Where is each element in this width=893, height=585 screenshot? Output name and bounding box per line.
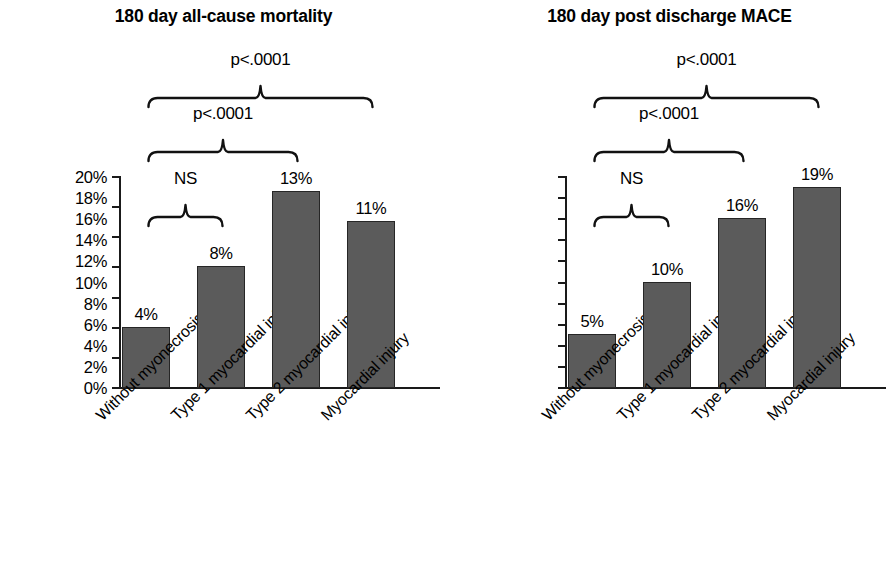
y-axis-tick-label: 6% (37, 315, 107, 334)
significance-bracket (594, 204, 669, 226)
significance-label: NS (174, 169, 197, 189)
y-axis-tick (558, 197, 565, 199)
significance-bracket (148, 85, 373, 107)
significance-bracket (594, 85, 819, 107)
bar-value-label: 19% (801, 165, 833, 184)
y-axis-tick-label: 18% (37, 189, 107, 208)
y-axis-tick-label: 0% (37, 379, 107, 398)
bar-value-label: 13% (280, 169, 312, 188)
y-axis-tick (112, 206, 119, 208)
chart-panel-post-discharge-mace: 180 day post discharge MACE p<.0001p<.00… (446, 0, 893, 585)
y-axis-tick-label: 20% (37, 168, 107, 187)
panel-title: 180 day all-cause mortality (0, 6, 447, 27)
y-axis-tick-label: 10% (37, 273, 107, 292)
bar-value-label: 10% (651, 260, 683, 279)
y-axis-tick (112, 297, 119, 299)
y-axis-tick-label: 12% (37, 252, 107, 271)
y-axis-line (565, 176, 567, 389)
y-axis-tick-label: 8% (37, 294, 107, 313)
y-axis-tick (112, 236, 119, 238)
y-axis-tick (558, 218, 565, 220)
y-axis-tick (112, 327, 119, 329)
y-axis-tick (558, 303, 565, 305)
significance-bracket (594, 139, 744, 161)
y-axis-tick (558, 345, 565, 347)
y-axis-tick (558, 324, 565, 326)
y-axis-tick-label: 4% (37, 336, 107, 355)
bar-value-label: 16% (726, 196, 758, 215)
y-axis-line (119, 176, 121, 389)
bar-value-label: 8% (209, 244, 232, 263)
y-axis-tick (558, 366, 565, 368)
significance-label: p<.0001 (231, 50, 291, 70)
y-axis-tick (112, 266, 119, 268)
significance-label: p<.0001 (639, 104, 699, 124)
y-axis-tick (558, 176, 565, 178)
y-axis-tick-label: 14% (37, 231, 107, 250)
significance-bracket (148, 204, 223, 226)
significance-label: NS (620, 169, 643, 189)
y-axis-tick (558, 260, 565, 262)
bar-value-label: 11% (356, 199, 387, 218)
significance-label: p<.0001 (193, 104, 253, 124)
y-axis-tick (558, 282, 565, 284)
significance-bracket (148, 139, 298, 161)
bar-value-label: 4% (134, 305, 157, 324)
significance-label: p<.0001 (677, 50, 737, 70)
panel-title: 180 day post discharge MACE (446, 6, 893, 27)
y-axis-tick (112, 357, 119, 359)
bar-value-label: 5% (580, 312, 603, 331)
y-axis-tick (112, 176, 119, 178)
y-axis-tick-label: 16% (37, 210, 107, 229)
y-axis-tick-label: 2% (37, 357, 107, 376)
y-axis-tick (558, 239, 565, 241)
chart-panel-all-cause-mortality: 180 day all-cause mortality p<.0001p<.00… (0, 0, 447, 585)
